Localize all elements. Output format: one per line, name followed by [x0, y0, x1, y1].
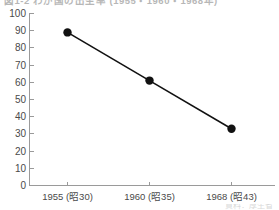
y-tick-label: 30	[15, 128, 27, 139]
figure-source-note: 資料：厚生省	[225, 204, 273, 210]
data-point	[63, 28, 71, 36]
y-tick-label: 60	[15, 77, 27, 88]
y-tick-label: 50	[15, 94, 27, 105]
data-point	[227, 125, 235, 133]
x-tick-label: 1960 (昭35)	[124, 191, 175, 202]
y-tick-label: 80	[15, 42, 27, 53]
y-tick-label: 20	[15, 146, 27, 157]
y-tick-label: 10	[15, 163, 27, 174]
x-tick-label: 1955 (昭30)	[42, 191, 93, 202]
x-axis-tick-labels: 1955 (昭30) 1960 (昭35) 1968 (昭43)	[42, 191, 257, 202]
data-point	[145, 76, 153, 84]
cropped-footer-strip: 資料：厚生省	[0, 204, 279, 210]
chart-svg: 100 90 80 70 60 50 40 30 20 10 0 1955 (昭…	[0, 0, 279, 210]
y-tick-label: 40	[15, 111, 27, 122]
y-tick-label: 90	[15, 25, 27, 36]
y-tick-label: 100	[9, 8, 26, 19]
x-tick-label: 1968 (昭43)	[206, 191, 257, 202]
y-tick-label: 70	[15, 60, 27, 71]
y-axis-tick-labels: 100 90 80 70 60 50 40 30 20 10 0	[9, 8, 26, 191]
y-tick-label: 0	[20, 180, 26, 191]
line-chart: 100 90 80 70 60 50 40 30 20 10 0 1955 (昭…	[0, 0, 279, 210]
plot-area-background	[29, 13, 275, 185]
